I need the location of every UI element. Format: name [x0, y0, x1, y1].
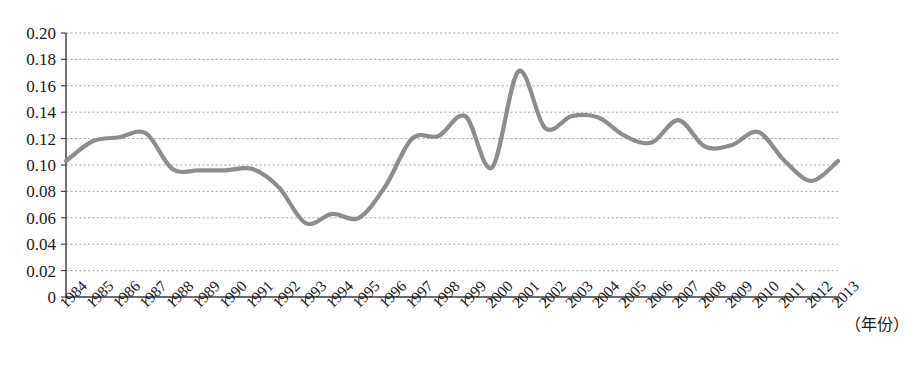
- x-tick-label: 1994: [322, 277, 356, 311]
- x-tick-label: 2002: [535, 277, 569, 311]
- x-tick-label: 1985: [83, 277, 117, 311]
- x-tick-label: 1997: [402, 277, 436, 311]
- x-tick-label: 2001: [509, 277, 543, 311]
- y-tick-label: 0.20: [26, 24, 56, 43]
- x-tick-label: 1998: [429, 277, 463, 311]
- y-tick-label: 0.02: [26, 262, 56, 281]
- x-tick-label: 1991: [242, 277, 276, 311]
- x-tick-label: 2006: [642, 277, 676, 311]
- x-tick-label: 1999: [455, 277, 489, 311]
- x-tick-label: 1995: [349, 277, 383, 311]
- x-tick-label: 2000: [482, 277, 516, 311]
- gridlines: [61, 33, 838, 297]
- x-axis-label: （年份）: [845, 316, 909, 333]
- x-tick-label: 1987: [136, 277, 170, 311]
- y-tick-label: 0.18: [26, 50, 56, 69]
- x-tick-label: 2011: [775, 278, 809, 312]
- y-tick-label: 0: [48, 288, 57, 307]
- x-tick-label: 2005: [615, 277, 649, 311]
- x-tick-label: 1984: [56, 277, 90, 311]
- y-axis-tick-labels: 00.020.040.060.080.100.120.140.160.180.2…: [26, 24, 56, 307]
- x-axis-tick-labels: 1984198519861987198819891990199119921993…: [56, 277, 862, 311]
- y-tick-label: 0.08: [26, 182, 56, 201]
- y-tick-label: 0.12: [26, 130, 56, 149]
- x-tick-label: 2012: [801, 277, 835, 311]
- x-tick-label: 2010: [748, 277, 782, 311]
- x-tick-label: 1993: [296, 277, 330, 311]
- y-tick-label: 0.04: [26, 235, 56, 254]
- x-tick-label: 2004: [589, 277, 623, 311]
- y-tick-label: 0.14: [26, 103, 56, 122]
- x-tick-label: 2007: [668, 277, 702, 311]
- x-tick-label: 1992: [269, 277, 303, 311]
- line-chart: 00.020.040.060.080.100.120.140.160.180.2…: [0, 0, 919, 376]
- data-series-line: [66, 71, 838, 224]
- x-tick-label: 1989: [189, 277, 223, 311]
- x-tick-label: 2013: [828, 277, 862, 311]
- x-tick-label: 2008: [695, 277, 729, 311]
- x-tick-label: 2003: [562, 277, 596, 311]
- x-tick-label: 1990: [216, 277, 250, 311]
- y-tick-label: 0.06: [26, 209, 56, 228]
- x-tick-label: 2009: [722, 277, 756, 311]
- y-tick-label: 0.10: [26, 156, 56, 175]
- chart-canvas: 00.020.040.060.080.100.120.140.160.180.2…: [0, 0, 919, 376]
- y-tick-label: 0.16: [26, 77, 56, 96]
- x-tick-label: 1988: [163, 277, 197, 311]
- x-tick-label: 1996: [376, 277, 410, 311]
- x-tick-label: 1986: [109, 277, 143, 311]
